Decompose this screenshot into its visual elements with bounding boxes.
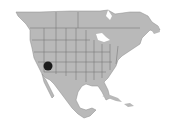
north-america-map [0, 0, 175, 128]
land-hispaniola [124, 103, 134, 107]
land-north-america [16, 10, 160, 118]
occurrence-marker [44, 62, 53, 71]
